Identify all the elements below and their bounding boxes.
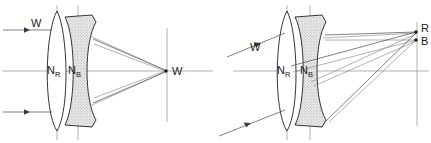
incident-ray-upper-arrow [24,27,30,32]
figure-canvas: W NR NB W [0,0,431,143]
incident-ray-label: W [250,41,261,53]
incident-oblique-ray-lower-arrow [244,122,251,127]
axial-rays-panel: W NR NB W [0,0,215,143]
refracted-ray-lower-mid-b [314,41,416,86]
refracted-ray-lower-mid [311,34,416,82]
refracted-ray-lower-to-red [325,33,416,122]
focus-label-blue: B [421,35,428,47]
incident-oblique-ray-lower [219,110,285,136]
converging-ray-upper-c [90,36,165,70]
focus-label-red: R [421,22,429,34]
red-focus-point [414,30,417,33]
incident-ray-label: W [31,17,42,29]
blue-focus-point [414,38,417,41]
incident-ray-lower-arrow [24,109,30,114]
focus-label-white: W [172,65,183,77]
oblique-diagram-svg: W NR NB R B [215,0,431,143]
white-focus-point [164,69,167,72]
converging-ray-upper-b [94,44,165,71]
oblique-rays-panel: W NR NB R B [215,0,431,143]
converging-ray-lower-c [90,72,165,106]
axial-diagram-svg: W NR NB W [0,0,215,143]
converging-ray-lower-b [94,71,165,98]
